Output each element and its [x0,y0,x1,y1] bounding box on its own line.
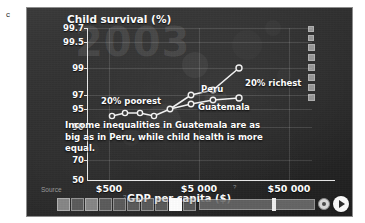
settings-knob-icon[interactable] [318,198,330,210]
help-icon[interactable]: ? [233,184,236,190]
timeline-year-cell[interactable] [57,198,70,211]
data-point [109,113,114,118]
data-point [137,110,142,115]
plot-area: 99.7 99.5 99 97 95 90 70 50 [87,28,312,180]
chart-panel: c 2003 Child survival (%) 99.7 99.5 99 [0,0,365,223]
visualization-canvas[interactable]: 2003 Child survival (%) 99.7 99.5 99 97 … [27,8,352,216]
timeline-year-cell[interactable] [155,198,168,211]
data-point [236,65,242,71]
ytick-label-99-7: 99.7 [63,23,84,33]
timeline-year-cell[interactable] [113,198,126,211]
timeline-scrollbar-fill [200,200,273,209]
data-point [122,110,127,115]
annotation-richest: 20% richest [245,78,301,88]
gridline-y [87,180,312,181]
data-point [236,95,242,101]
timeline-scrollbar[interactable] [199,199,315,210]
timeline-scrollbar-handle[interactable] [272,198,276,211]
xtick-label-50000: $50 000 [268,183,311,194]
scale-square[interactable] [308,64,315,71]
scale-square[interactable] [308,44,315,51]
ytick-label-70: 70 [72,155,84,165]
ytick-label-50: 50 [72,175,84,185]
annotation-poorest: 20% poorest [101,96,161,106]
timeline-year-cell[interactable] [85,198,98,211]
size-scale-control[interactable] [308,26,315,101]
ytick-label-95: 95 [72,104,84,114]
timeline-year-cell[interactable] [127,198,140,211]
data-point [167,106,173,112]
chart-caption: Income inequalities in Guatemala are as … [65,120,265,155]
timeline-year-cell-active[interactable] [169,198,182,211]
timeline-year-cell[interactable] [141,198,154,211]
scale-square[interactable] [308,94,315,101]
timeline-year-cell[interactable] [99,198,112,211]
timeline-player[interactable] [57,197,349,211]
annotation-peru: Peru [201,84,223,94]
data-point [151,113,156,118]
ytick-label-97: 97 [72,90,84,100]
play-icon [339,200,345,208]
data-point [188,101,194,107]
ytick-label-99: 99 [72,63,84,73]
timeline-year-cell[interactable] [183,198,196,211]
scale-square[interactable] [308,26,314,32]
scale-square[interactable] [308,54,315,61]
annotation-guatemala: Guatemala [198,102,250,112]
data-point [188,92,194,98]
xtick-label-500: $500 [96,183,122,194]
source-label[interactable]: Source [41,186,62,193]
scale-square[interactable] [308,84,315,91]
ytick-label-99-5: 99.5 [63,37,84,47]
timeline-year-cell[interactable] [71,198,84,211]
panel-letter: c [6,10,10,19]
play-button[interactable] [333,196,349,212]
scale-square[interactable] [308,35,314,41]
scale-square[interactable] [308,74,315,81]
